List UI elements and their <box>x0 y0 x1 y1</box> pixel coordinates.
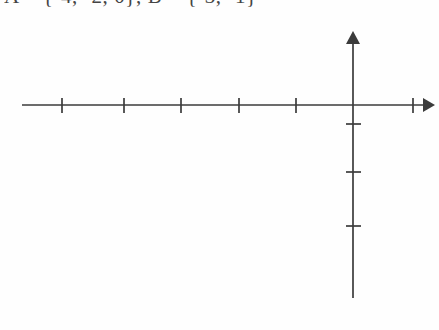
x-axis-arrow-icon <box>423 98 435 112</box>
y-axis-arrow-icon <box>346 31 360 44</box>
coordinate-axes-figure <box>0 0 439 330</box>
axes-svg <box>0 0 439 330</box>
worksheet-page: A = {-4, -2, 0}, B = {-3, -1} <box>0 0 439 330</box>
